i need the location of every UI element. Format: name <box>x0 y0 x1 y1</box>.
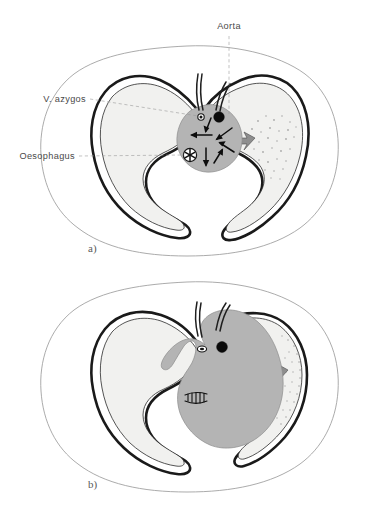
mediastinal-mass-a <box>177 105 242 173</box>
label-azygos: V. azygos <box>43 94 86 104</box>
label-oesophagus: Oesophagus <box>19 151 75 161</box>
aorta-marker-b <box>217 342 228 353</box>
label-aorta: Aorta <box>217 21 241 31</box>
figure-container: Aorta V. azygos Oesophagus a) <box>0 0 374 518</box>
oesophagus-marker-b <box>185 393 207 404</box>
azygos-inner-b <box>200 348 204 351</box>
panel-b: b) <box>41 282 339 492</box>
panel-caption-a: a) <box>88 242 97 255</box>
panel-caption-b: b) <box>88 478 98 491</box>
azygos-inner-a <box>200 116 203 119</box>
aorta-marker-a <box>214 112 225 123</box>
panel-a: Aorta V. azygos Oesophagus a) <box>19 21 338 256</box>
